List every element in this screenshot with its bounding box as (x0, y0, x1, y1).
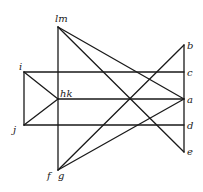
label-e: e (187, 146, 193, 157)
label-a: a (187, 94, 193, 105)
label-i: i (19, 61, 22, 72)
label-f: f (46, 170, 53, 181)
diagram-lines (24, 27, 184, 170)
label-d: d (187, 120, 193, 131)
segment-fg-b (58, 45, 184, 170)
label-g: g (58, 170, 64, 181)
segment-fg-a (58, 99, 184, 170)
segment-lm-e (58, 27, 184, 152)
label-c: c (187, 67, 193, 78)
label-j: j (11, 124, 16, 135)
label-b: b (187, 40, 193, 51)
label-lm: lm (55, 13, 68, 24)
segment-i-hk (24, 72, 58, 99)
labels: lm b c a d e i j hk f g (11, 13, 193, 181)
geometric-diagram: lm b c a d e i j hk f g (0, 0, 203, 192)
label-hk: hk (60, 88, 73, 99)
segment-j-hk (24, 99, 58, 125)
